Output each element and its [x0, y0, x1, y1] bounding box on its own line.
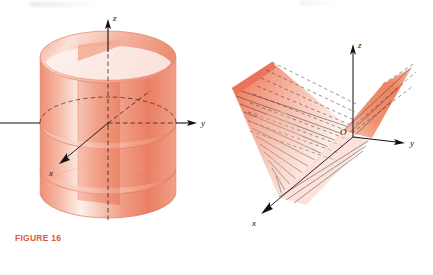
- surface-right-wing: [343, 63, 416, 139]
- y-axis-label: y: [200, 118, 205, 128]
- figure-page: z y x FIGURE 16: [0, 0, 433, 275]
- x-axis-arrowhead: [261, 202, 273, 214]
- x-axis-label: x: [251, 218, 256, 228]
- x-axis-label: x: [48, 168, 53, 178]
- y-axis-label: y: [409, 138, 414, 148]
- figure-17: z y x O FIGURE 17: [216, 0, 433, 275]
- origin-label: O: [340, 127, 347, 137]
- z-axis-label: z: [357, 40, 362, 50]
- figure-16: z y x FIGURE 16: [0, 0, 216, 275]
- figure-16-caption: FIGURE 16: [15, 233, 61, 243]
- z-axis-label: z: [112, 13, 117, 23]
- cutting-plane-front: [78, 123, 120, 205]
